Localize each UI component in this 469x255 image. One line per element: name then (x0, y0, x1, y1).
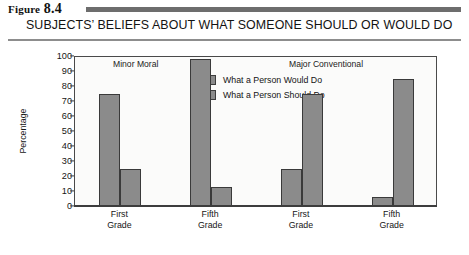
figure-caption-rule (8, 39, 461, 41)
x-axis-tick-label: FifthGrade (175, 209, 245, 230)
figure-caption: SUBJECTS’ BELIEFS ABOUT WHAT SOMEONE SHO… (26, 18, 466, 32)
x-axis-tick-label-line: Grade (84, 220, 154, 231)
bar (302, 94, 323, 207)
x-axis-baseline (74, 205, 437, 207)
x-axis-tick-label: FirstGrade (266, 209, 336, 230)
bar (190, 59, 211, 206)
chart-plot-frame: Minor Moral Major Conventional What a Pe… (74, 56, 437, 206)
x-axis-tick-label-line: First (84, 209, 154, 220)
x-axis-tick-label: FirstGrade (84, 209, 154, 230)
figure-number-value: 8.4 (44, 1, 62, 16)
plot-area: Minor Moral Major Conventional What a Pe… (75, 57, 436, 206)
legend-label-would: What a Person Would Do (223, 75, 322, 85)
figure-number: Figure 8.4 (8, 1, 62, 17)
y-axis-title: Percentage (18, 86, 28, 176)
group-heading-minor-moral: Minor Moral (113, 59, 158, 69)
x-axis-tick-label-line: Grade (357, 220, 427, 231)
x-axis: FirstGradeFifthGradeFirstGradeFifthGrade (74, 209, 437, 239)
legend-item-would: What a Person Would Do (197, 73, 325, 86)
group-heading-major-conventional: Major Conventional (289, 59, 363, 69)
bar (281, 169, 302, 207)
x-axis-tick-label-line: Grade (266, 220, 336, 231)
x-axis-tick-label-line: First (266, 209, 336, 220)
y-axis: Percentage 0102030405060708090100 (0, 56, 74, 206)
bar (120, 169, 141, 207)
x-axis-tick-label-line: Grade (175, 220, 245, 231)
figure-number-word: Figure (8, 3, 40, 15)
bar (211, 187, 232, 207)
figure-header-rule (86, 7, 461, 12)
bar (393, 79, 414, 207)
x-axis-tick-label-line: Fifth (357, 209, 427, 220)
x-axis-tick-label: FifthGrade (357, 209, 427, 230)
figure-header: Figure 8.4 SUBJECTS’ BELIEFS ABOUT WHAT … (0, 0, 469, 46)
bar (99, 94, 120, 207)
x-axis-tick-label-line: Fifth (175, 209, 245, 220)
